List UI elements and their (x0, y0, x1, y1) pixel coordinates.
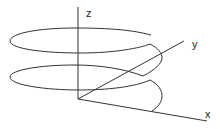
y-axis-label: y (192, 38, 198, 50)
x-axis (78, 99, 207, 121)
helix-upper-turn (10, 28, 162, 76)
helix-lower-turn (10, 65, 162, 111)
x-axis-label: x (205, 108, 211, 120)
z-axis-label: z (86, 7, 92, 19)
helix-diagram: z y x (0, 0, 220, 129)
y-axis (78, 41, 184, 99)
